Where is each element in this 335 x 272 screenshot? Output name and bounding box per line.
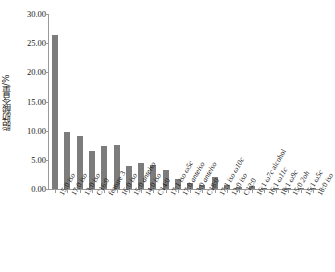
y-axis-title: 脂肪酸含量/% [1, 48, 15, 158]
y-tick-mark [45, 131, 48, 132]
y-tick-label: 25.00 [14, 39, 46, 48]
y-tick-mark [45, 43, 48, 44]
y-tick-mark [45, 102, 48, 103]
y-tick-mark [45, 160, 48, 161]
y-tick-label: 15.00 [14, 98, 46, 107]
bar [52, 35, 58, 189]
y-tick-mark [45, 72, 48, 73]
x-axis-tick-labels: 15:0 iso17:0 iso13:0 isoC16:0feature 316… [48, 191, 320, 272]
y-tick-label: 5.00 [14, 156, 46, 165]
y-tick-label: 20.00 [14, 68, 46, 77]
y-tick-label: 30.00 [14, 10, 46, 19]
y-tick-label: 10.00 [14, 127, 46, 136]
y-tick-label: 0.00 [14, 185, 46, 194]
y-axis-tick-labels: 0.005.0010.0015.0020.0025.0030.00 [14, 0, 46, 200]
y-tick-mark [45, 14, 48, 15]
y-tick-mark [45, 189, 48, 190]
